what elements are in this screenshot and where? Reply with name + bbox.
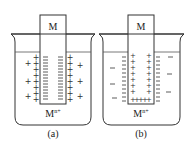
double-layer-diagram: M +++ +++ ++ +++ +++ + bbox=[0, 0, 190, 145]
panel-a: M +++ +++ ++ +++ +++ + bbox=[11, 15, 95, 140]
panel-b: M +++ +++ + +++ +++ + +++ ++ bbox=[99, 15, 184, 140]
ion-label-b: Mn+ bbox=[133, 108, 149, 119]
electrode-label-a: M bbox=[49, 21, 58, 32]
electrode-label-b: M bbox=[137, 21, 146, 32]
svg-text:+: + bbox=[77, 77, 84, 86]
caption-a: (a) bbox=[47, 128, 58, 140]
svg-text:+: + bbox=[77, 61, 84, 70]
caption-b: (b) bbox=[135, 128, 147, 140]
svg-text:+: + bbox=[130, 88, 136, 96]
svg-text:+: + bbox=[67, 95, 74, 104]
ion-label-a: Mn+ bbox=[45, 108, 61, 119]
svg-text:+: + bbox=[25, 77, 32, 86]
svg-text:+: + bbox=[77, 92, 84, 101]
svg-text:+: + bbox=[146, 96, 152, 104]
svg-text:+: + bbox=[33, 95, 40, 104]
svg-text:+: + bbox=[146, 88, 152, 96]
svg-text:+: + bbox=[25, 92, 32, 101]
svg-text:+: + bbox=[25, 59, 32, 68]
